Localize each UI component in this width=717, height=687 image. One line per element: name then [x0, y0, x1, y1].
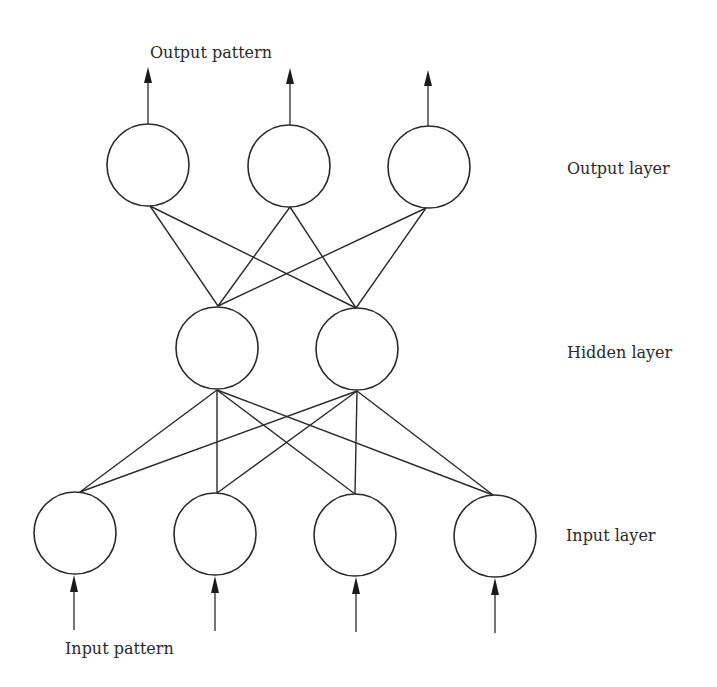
neural-network-diagram: Output pattern Input pattern Output laye…	[0, 0, 717, 687]
input-node	[454, 495, 536, 577]
input-arrows	[70, 575, 499, 633]
input-node	[34, 492, 116, 574]
arrow-up-icon	[286, 68, 294, 125]
input-layer	[34, 492, 536, 577]
output-arrows	[144, 67, 432, 126]
output-node	[248, 125, 330, 207]
hidden-layer-label: Hidden layer	[567, 343, 673, 362]
arrow-up-icon	[491, 578, 499, 633]
hidden-layer	[176, 307, 398, 390]
input-pattern-label: Input pattern	[65, 639, 174, 658]
output-node	[388, 126, 470, 208]
input-layer-label: Input layer	[566, 526, 656, 545]
edges-hidden-input	[80, 390, 493, 495]
input-node	[174, 493, 256, 575]
arrow-up-icon	[352, 577, 360, 632]
hidden-node	[316, 308, 398, 390]
input-node	[314, 494, 396, 576]
arrow-up-icon	[144, 67, 152, 124]
hidden-node	[176, 307, 258, 389]
output-layer-label: Output layer	[567, 159, 670, 178]
output-layer	[107, 124, 470, 208]
output-node	[107, 124, 189, 206]
arrow-up-icon	[70, 575, 78, 630]
edges-output-hidden	[150, 206, 426, 308]
arrow-up-icon	[424, 70, 432, 126]
arrow-up-icon	[211, 576, 219, 631]
output-pattern-label: Output pattern	[150, 43, 272, 62]
